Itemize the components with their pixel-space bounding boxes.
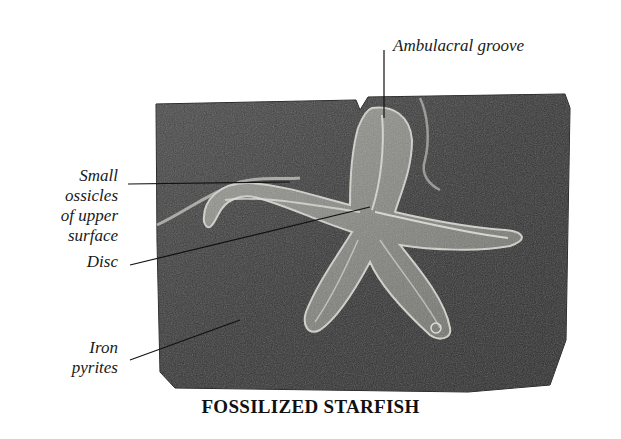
label-iron-pyrites-line-1: Iron [89,338,118,358]
label-small-ossicles-line-4: surface [68,226,118,246]
label-disc: Disc [87,252,118,272]
diagram-canvas: Ambulacral groove Small ossicles of uppe… [0,0,621,439]
label-iron-pyrites-line-2: pyrites [72,358,118,378]
label-small-ossicles-line-2: ossicles [65,186,118,206]
label-small-ossicles-line-3: of upper [61,206,118,226]
label-ambulacral-groove: Ambulacral groove [393,36,524,56]
label-small-ossicles-line-1: Small [79,166,118,186]
figure-caption: FOSSILIZED STARFISH [0,396,621,418]
